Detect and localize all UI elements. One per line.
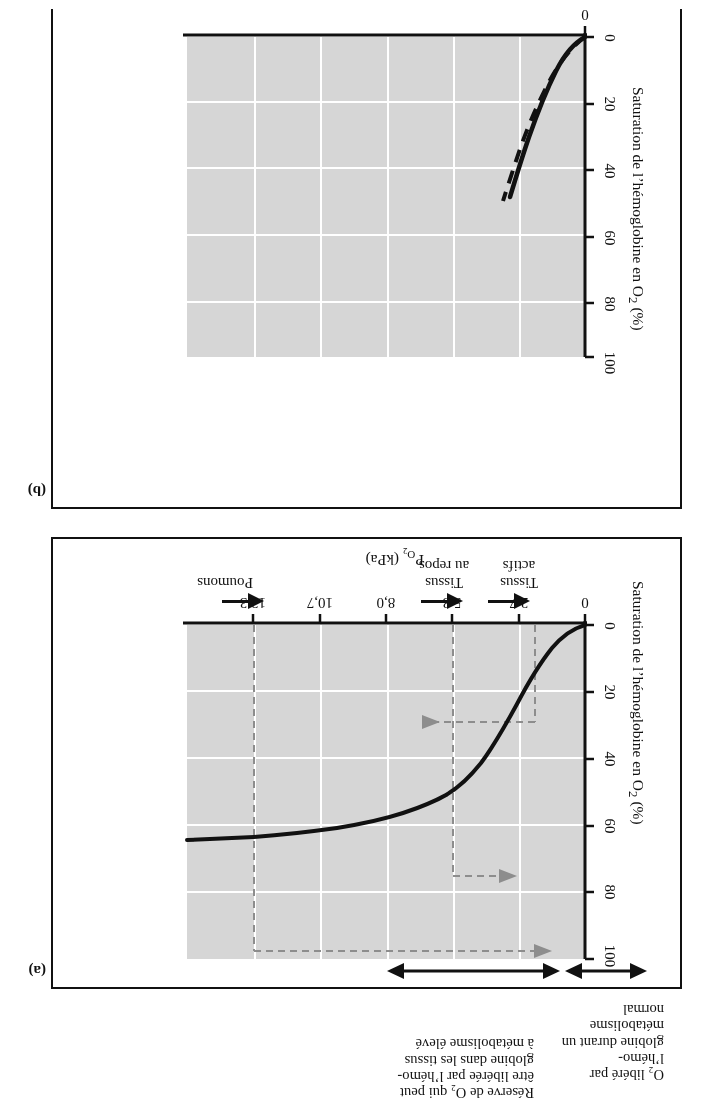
y-tick-label: 60 <box>601 811 618 841</box>
y-tick-label: 0 <box>601 25 618 51</box>
y-tick-label: 20 <box>601 89 618 119</box>
x-tick-label: 0 <box>570 594 600 611</box>
y-tick-label: 40 <box>601 744 618 774</box>
y-axis-title-b: Saturation de l’hémoglobine en O2 (%) <box>625 87 647 331</box>
curve-dissociation-a <box>187 625 585 840</box>
curve-solide-b <box>510 37 585 197</box>
x-tick-label: 5,3 <box>432 594 472 611</box>
panel-letter-b: (b) <box>28 482 46 499</box>
y-tick-label: 80 <box>601 289 618 319</box>
annotation-o2-libere: O₂ libéré par l’hémo- globine durant un … <box>546 1002 664 1083</box>
y-tick-label: 60 <box>601 223 618 253</box>
y-tick-label: 40 <box>601 156 618 186</box>
y-axis-title-a: Saturation de l’hémoglobine en O2 (%) <box>625 581 647 825</box>
panel-b: Saturation de l’hémoglobine en O2 (%) 0 … <box>51 9 682 509</box>
x-tick-label: 8,0 <box>366 594 406 611</box>
x-tick-label: 2,7 <box>499 594 539 611</box>
y-tick-label: 100 <box>601 937 618 975</box>
guide-lines-a <box>254 625 540 951</box>
x-tick-label: 10,7 <box>297 594 343 611</box>
x-tick-label: 13,3 <box>230 594 276 611</box>
y-tick-label: 80 <box>601 877 618 907</box>
y-tick-label: 100 <box>601 344 618 382</box>
marker-label-tissus-au-repos: Tissus au repos <box>394 558 494 591</box>
chart-b-graphics <box>49 7 680 507</box>
marker-label-poumons: Poumons <box>170 575 280 592</box>
chart-a: Saturation de l’hémoglobine en O2 (%) 0 … <box>49 535 680 987</box>
panel-a: Saturation de l’hémoglobine en O2 (%) 0 … <box>51 537 682 989</box>
x-tick-label: 0 <box>570 6 600 23</box>
y-tick-label: 0 <box>601 613 618 639</box>
annotation-reserve-o2: Réserve de O₂ qui peut être libérée par … <box>374 1036 534 1101</box>
panel-letter-a: (a) <box>29 962 47 979</box>
y-tick-label: 20 <box>601 677 618 707</box>
